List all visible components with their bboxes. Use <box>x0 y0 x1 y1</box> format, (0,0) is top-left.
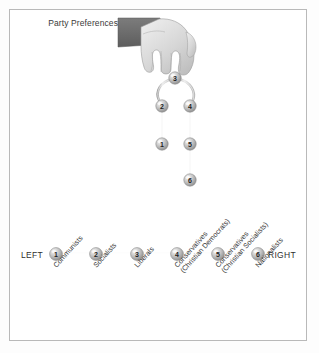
figure-title-line2: Preferences <box>71 18 118 28</box>
party-preferences-figure: Party Preferences LEFT RIGHT <box>0 0 319 353</box>
figure-frame <box>9 9 307 341</box>
figure-title-line1: Party <box>48 18 68 28</box>
scale-left-label: LEFT <box>21 250 43 260</box>
figure-title: Party Preferences <box>0 19 118 29</box>
